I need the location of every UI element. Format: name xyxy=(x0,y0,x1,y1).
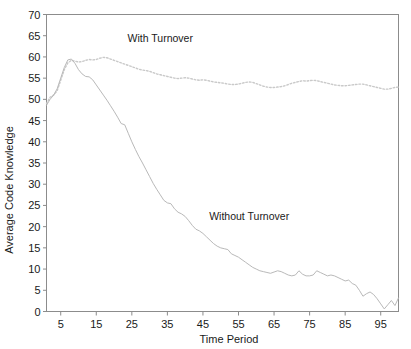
x-axis-title: Time Period xyxy=(200,333,259,345)
series-annotation: Without Turnover xyxy=(209,210,289,222)
x-tick-label: 85 xyxy=(339,318,351,330)
x-axis-ticks: 5152535455565758595 xyxy=(58,312,387,330)
y-axis-ticks: 0510152025303540455055606570 xyxy=(28,9,46,318)
y-tick-label: 55 xyxy=(28,72,40,84)
y-tick-label: 65 xyxy=(28,30,40,42)
y-tick-label: 45 xyxy=(28,115,40,127)
y-tick-label: 5 xyxy=(34,284,40,296)
y-tick-label: 10 xyxy=(28,263,40,275)
x-tick-label: 35 xyxy=(161,318,173,330)
x-tick-label: 95 xyxy=(375,318,387,330)
series-annotation: With Turnover xyxy=(128,32,194,44)
series-layer xyxy=(47,57,399,309)
x-tick-label: 65 xyxy=(268,318,280,330)
line-chart: 0510152025303540455055606570 51525354555… xyxy=(0,0,411,349)
x-tick-label: 15 xyxy=(90,318,102,330)
series-line-without-turnover xyxy=(47,59,399,309)
y-tick-label: 50 xyxy=(28,93,40,105)
chart-page: 0510152025303540455055606570 51525354555… xyxy=(0,0,411,349)
y-tick-label: 20 xyxy=(28,221,40,233)
y-tick-label: 30 xyxy=(28,178,40,190)
x-tick-label: 75 xyxy=(303,318,315,330)
x-tick-label: 25 xyxy=(126,318,138,330)
x-tick-label: 55 xyxy=(232,318,244,330)
y-tick-label: 70 xyxy=(28,9,40,21)
x-tick-label: 5 xyxy=(58,318,64,330)
x-tick-label: 45 xyxy=(197,318,209,330)
y-tick-label: 0 xyxy=(34,306,40,318)
plot-frame xyxy=(47,15,399,312)
y-tick-label: 35 xyxy=(28,157,40,169)
series-line-with-turnover xyxy=(47,57,399,103)
y-axis-title: Average Code Knowledge xyxy=(3,126,15,254)
y-tick-label: 25 xyxy=(28,199,40,211)
y-tick-label: 60 xyxy=(28,51,40,63)
y-tick-label: 15 xyxy=(28,242,40,254)
series-annotations: With TurnoverWithout Turnover xyxy=(128,32,290,222)
y-tick-label: 40 xyxy=(28,136,40,148)
